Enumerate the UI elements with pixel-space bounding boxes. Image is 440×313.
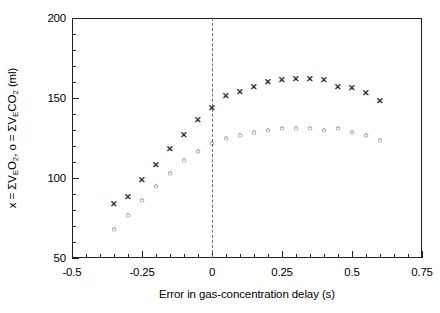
- data-point-x: ✕: [264, 78, 272, 87]
- y-axis-minor-tick: [72, 162, 76, 163]
- data-point-x: ✕: [362, 89, 370, 98]
- y-axis-label-sub-e2: E: [11, 112, 20, 117]
- y-axis-label-sub-e1: E: [11, 170, 20, 175]
- y-axis-label-units: (ml): [6, 68, 18, 91]
- y-axis-label-sub-2b: 2: [11, 90, 20, 94]
- data-point-x: ✕: [236, 87, 244, 96]
- x-axis-tick-label: 0.5: [344, 266, 359, 278]
- x-axis-minor-tick: [86, 254, 87, 258]
- data-point-x: ✕: [278, 76, 286, 85]
- data-point-x: ✕: [208, 103, 216, 112]
- y-axis-label-mid: , o = ΣV: [6, 117, 18, 157]
- data-point-o: ○: [237, 131, 242, 140]
- x-axis-minor-tick: [254, 254, 255, 258]
- data-point-o: ○: [321, 126, 326, 135]
- x-axis-major-tick: [422, 251, 423, 258]
- plot-area: [72, 18, 422, 258]
- data-point-o: ○: [195, 147, 200, 156]
- x-axis-minor-tick: [296, 254, 297, 258]
- data-point-x: ✕: [152, 161, 160, 170]
- x-axis-major-tick: [142, 251, 143, 258]
- data-point-o: ○: [363, 131, 368, 140]
- y-axis-tick-label: 100: [32, 172, 66, 184]
- x-axis-minor-tick: [156, 254, 157, 258]
- y-axis-minor-tick: [72, 34, 76, 35]
- data-point-o: ○: [279, 124, 284, 133]
- y-axis-minor-tick: [72, 146, 76, 147]
- data-point-o: ○: [111, 225, 116, 234]
- y-axis-tick-label: 150: [32, 92, 66, 104]
- data-point-x: ✕: [124, 193, 132, 202]
- x-axis-major-tick: [352, 251, 353, 258]
- data-point-x: ✕: [334, 82, 342, 91]
- y-axis-major-tick: [72, 98, 79, 99]
- data-point-o: ○: [265, 126, 270, 135]
- data-point-o: ○: [139, 196, 144, 205]
- y-axis-minor-tick: [72, 50, 76, 51]
- figure-scatter-plot: x = ΣVEO2, o = ΣVECO2 (ml) -0.5-0.2500.2…: [0, 0, 440, 313]
- x-axis-major-tick: [282, 251, 283, 258]
- y-axis-label-co2: CO: [6, 95, 18, 112]
- data-point-x: ✕: [292, 74, 300, 83]
- y-axis-minor-tick: [72, 210, 76, 211]
- y-axis-tick-label: 200: [32, 12, 66, 24]
- data-point-x: ✕: [138, 175, 146, 184]
- data-point-x: ✕: [194, 116, 202, 125]
- x-axis-minor-tick: [310, 254, 311, 258]
- x-axis-minor-tick: [198, 254, 199, 258]
- x-axis-tick-label: 0.25: [271, 266, 293, 278]
- x-axis-tick-label: 0.75: [411, 266, 433, 278]
- x-axis-minor-tick: [170, 254, 171, 258]
- data-point-x: ✕: [180, 130, 188, 139]
- y-axis-major-tick: [72, 178, 79, 179]
- data-point-o: ○: [167, 169, 172, 178]
- y-axis-tick-label: 50: [32, 252, 66, 264]
- data-point-o: ○: [349, 127, 354, 136]
- y-axis-major-tick: [72, 258, 79, 259]
- x-axis-minor-tick: [114, 254, 115, 258]
- y-axis-minor-tick: [72, 114, 76, 115]
- data-point-o: ○: [251, 127, 256, 136]
- data-point-o: ○: [153, 182, 158, 191]
- data-point-o: ○: [223, 134, 228, 143]
- data-point-o: ○: [181, 156, 186, 165]
- y-axis-label-sub-2a: 2: [11, 157, 20, 161]
- x-axis-minor-tick: [394, 254, 395, 258]
- data-point-o: ○: [307, 124, 312, 133]
- data-point-x: ✕: [250, 82, 258, 91]
- data-point-o: ○: [209, 139, 214, 148]
- x-axis-minor-tick: [226, 254, 227, 258]
- x-axis-minor-tick: [240, 254, 241, 258]
- y-axis-label: x = ΣVEO2, o = ΣVECO2 (ml): [6, 68, 20, 209]
- y-axis-label-container: x = ΣVEO2, o = ΣVECO2 (ml): [2, 18, 24, 258]
- data-point-x: ✕: [166, 145, 174, 154]
- y-axis-major-tick: [72, 18, 79, 19]
- x-axis-tick-label: -0.5: [62, 266, 81, 278]
- y-axis-minor-tick: [72, 194, 76, 195]
- y-axis-label-o2: O: [6, 161, 18, 170]
- data-point-x: ✕: [348, 84, 356, 93]
- data-point-o: ○: [377, 135, 382, 144]
- x-axis-label: Error in gas-concentration delay (s): [72, 288, 422, 300]
- x-axis-minor-tick: [366, 254, 367, 258]
- y-axis-label-prefix-x: x = ΣV: [6, 175, 18, 208]
- data-point-o: ○: [293, 124, 298, 133]
- x-axis-tick-label: -0.25: [129, 266, 154, 278]
- data-point-o: ○: [335, 124, 340, 133]
- y-axis-minor-tick: [72, 82, 76, 83]
- x-axis-minor-tick: [184, 254, 185, 258]
- x-axis-minor-tick: [380, 254, 381, 258]
- x-axis-minor-tick: [338, 254, 339, 258]
- y-axis-minor-tick: [72, 66, 76, 67]
- y-axis-minor-tick: [72, 242, 76, 243]
- x-axis-minor-tick: [268, 254, 269, 258]
- x-axis-tick-label: 0: [209, 266, 215, 278]
- data-point-x: ✕: [110, 199, 118, 208]
- x-axis-major-tick: [72, 251, 73, 258]
- data-point-x: ✕: [376, 97, 384, 106]
- x-axis-minor-tick: [100, 254, 101, 258]
- data-point-x: ✕: [222, 92, 230, 101]
- x-axis-minor-tick: [408, 254, 409, 258]
- data-point-o: ○: [125, 211, 130, 220]
- data-point-x: ✕: [306, 74, 314, 83]
